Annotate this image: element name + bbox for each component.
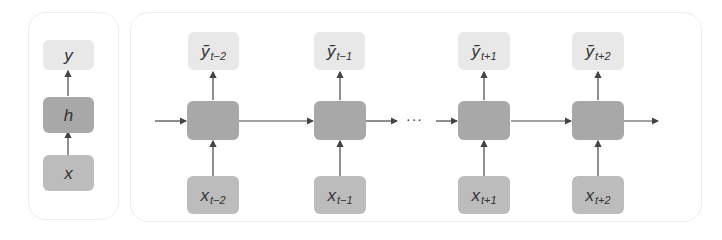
hidden-label: h — [64, 107, 73, 124]
ellipsis: ··· — [406, 111, 423, 127]
input-label: x — [64, 165, 73, 182]
input-node-t+1: xt+1 — [458, 176, 510, 214]
hidden-node-t+2 — [572, 101, 624, 140]
output-label: y — [64, 47, 73, 64]
output-node-t-2: ỹt−2 — [188, 32, 239, 70]
output-node-t-1: ỹt−1 — [314, 32, 365, 70]
input-node-t+2: xt+2 — [572, 176, 624, 214]
hidden-node-h: h — [43, 97, 94, 133]
output-node-t+2: ỹt+2 — [572, 32, 624, 70]
input-node-t-2: xt−2 — [187, 176, 239, 214]
output-node-y: y — [43, 40, 94, 70]
input-node-x: x — [43, 155, 94, 191]
input-node-t-1: xt−1 — [314, 176, 366, 214]
hidden-node-t+1 — [458, 101, 510, 140]
hidden-node-t-2 — [187, 101, 239, 140]
hidden-node-t-1 — [314, 101, 366, 140]
output-node-t+1: ỹt+1 — [458, 32, 510, 70]
